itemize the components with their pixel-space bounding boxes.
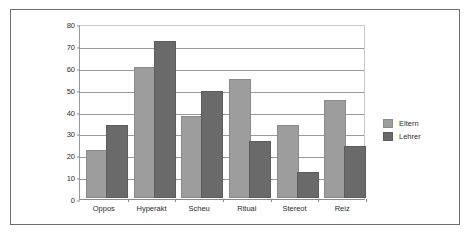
bar-scheu-lehrer bbox=[201, 91, 223, 198]
chart-frame: 01020304050607080 OpposHyperaktScheuRitu… bbox=[10, 9, 460, 225]
y-tick-label: 40 bbox=[67, 110, 75, 118]
legend-label-eltern: Eltern bbox=[399, 120, 419, 128]
y-tick-label: 30 bbox=[67, 132, 75, 140]
y-tick-mark bbox=[77, 135, 80, 136]
chart-figure: 01020304050607080 OpposHyperaktScheuRitu… bbox=[0, 0, 475, 244]
bar-stereot-eltern bbox=[277, 125, 299, 198]
x-tick-mark bbox=[128, 199, 129, 202]
bar-group bbox=[272, 26, 320, 198]
y-tick-mark bbox=[77, 91, 80, 92]
legend-swatch-lehrer bbox=[383, 132, 393, 141]
x-tick-mark bbox=[223, 199, 224, 202]
x-tick-mark bbox=[366, 199, 367, 202]
chart-legend: Eltern Lehrer bbox=[383, 117, 421, 143]
y-tick-label: 60 bbox=[67, 66, 75, 74]
y-tick-mark bbox=[77, 179, 80, 180]
y-tick-mark bbox=[77, 26, 80, 27]
x-label-scheu: Scheu bbox=[189, 205, 210, 213]
x-tick-mark bbox=[318, 199, 319, 202]
y-tick-label: 50 bbox=[67, 88, 75, 96]
bar-scheu-eltern bbox=[181, 116, 203, 198]
bar-group bbox=[81, 26, 129, 198]
legend-item-lehrer: Lehrer bbox=[383, 130, 421, 143]
x-label-reiz: Reiz bbox=[335, 205, 350, 213]
legend-swatch-eltern bbox=[383, 119, 393, 128]
bars-layer bbox=[81, 26, 363, 198]
x-label-oppos: Oppos bbox=[93, 205, 115, 213]
y-tick-label: 10 bbox=[67, 175, 75, 183]
y-tick-mark bbox=[77, 47, 80, 48]
bar-oppos-lehrer bbox=[106, 125, 128, 198]
bar-stereot-lehrer bbox=[297, 172, 319, 198]
bar-reiz-eltern bbox=[324, 100, 346, 198]
bar-reiz-lehrer bbox=[344, 146, 366, 198]
bar-group bbox=[319, 26, 367, 198]
y-tick-mark bbox=[77, 201, 80, 202]
y-tick-label: 70 bbox=[67, 44, 75, 52]
x-label-hyperakt: Hyperakt bbox=[136, 205, 166, 213]
x-tick-mark bbox=[175, 199, 176, 202]
bar-group bbox=[129, 26, 177, 198]
bar-ritual-eltern bbox=[229, 79, 251, 198]
y-tick-mark bbox=[77, 157, 80, 158]
bar-ritual-lehrer bbox=[249, 141, 271, 198]
legend-label-lehrer: Lehrer bbox=[399, 133, 421, 141]
bar-hyperakt-eltern bbox=[134, 67, 156, 198]
legend-item-eltern: Eltern bbox=[383, 117, 421, 130]
y-tick-mark bbox=[77, 113, 80, 114]
bar-group bbox=[224, 26, 272, 198]
bar-group bbox=[176, 26, 224, 198]
bar-oppos-eltern bbox=[86, 150, 108, 198]
x-tick-mark bbox=[271, 199, 272, 202]
y-tick-label: 0 bbox=[71, 197, 75, 205]
y-tick-mark bbox=[77, 69, 80, 70]
x-label-stereot: Stereot bbox=[282, 205, 306, 213]
x-label-ritual: Ritual bbox=[237, 205, 256, 213]
plot-area: 01020304050607080 OpposHyperaktScheuRitu… bbox=[79, 25, 365, 200]
y-tick-label: 20 bbox=[67, 154, 75, 162]
bar-hyperakt-lehrer bbox=[154, 41, 176, 198]
y-tick-label: 80 bbox=[67, 22, 75, 30]
